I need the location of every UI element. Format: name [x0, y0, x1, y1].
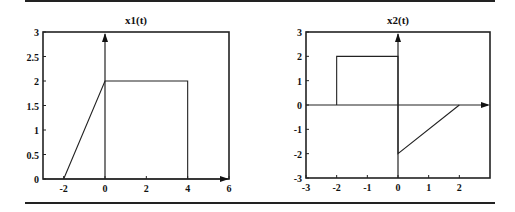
- x-tick-label: -3: [302, 182, 310, 193]
- x-tick-label: -1: [363, 182, 371, 193]
- y-tick-label: 1: [297, 76, 302, 87]
- x-tick-label: 6: [227, 183, 232, 194]
- x-tick-label: 2: [457, 182, 462, 193]
- x-tick-label: -2: [59, 183, 67, 194]
- plot-title: x2(t): [387, 14, 409, 27]
- x-tick-label: 1: [426, 182, 431, 193]
- y-tick-label: 2.5: [27, 52, 40, 63]
- x-tick-label: 0: [103, 183, 108, 194]
- y-tick-label: 0: [297, 100, 302, 111]
- arrow-right-icon: [481, 102, 490, 108]
- x-tick-label: 2: [144, 183, 149, 194]
- x-tick-label: 0: [396, 182, 401, 193]
- x-tick-label: 4: [185, 183, 190, 194]
- axes-frame: [43, 32, 229, 179]
- y-tick-label: -2: [294, 149, 302, 160]
- plot-1: x1(t)00.511.522.53-20246: [27, 14, 232, 194]
- y-tick-label: 3: [297, 27, 302, 38]
- y-tick-label: 3: [34, 27, 39, 38]
- y-tick-label: -1: [294, 124, 302, 135]
- y-tick-label: 0.5: [27, 150, 40, 161]
- arrow-up-icon: [395, 33, 401, 42]
- y-tick-label: 0: [34, 174, 39, 185]
- y-tick-label: 1.5: [27, 101, 40, 112]
- y-tick-label: 2: [34, 76, 39, 87]
- signal-line: [64, 81, 188, 179]
- y-tick-label: 2: [297, 51, 302, 62]
- plot-title: x1(t): [125, 14, 147, 27]
- charts: x1(t)00.511.522.53-20246x2(t)-3-2-10123-…: [0, 0, 515, 212]
- x-tick-label: -2: [332, 182, 340, 193]
- y-tick-label: -3: [294, 173, 302, 184]
- y-tick-label: 1: [34, 125, 39, 136]
- arrow-right-icon: [220, 176, 229, 182]
- plot-2: x2(t)-3-2-10123-3-2-1012: [294, 14, 490, 193]
- arrow-up-icon: [102, 33, 108, 42]
